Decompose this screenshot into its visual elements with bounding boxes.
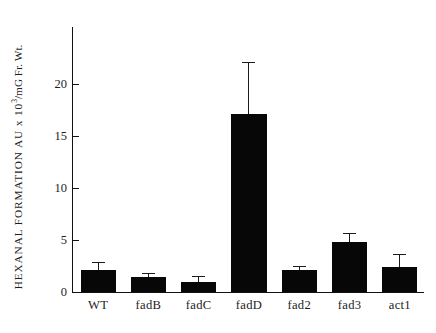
error-bar-cap-fadC xyxy=(192,276,205,277)
error-bar-cap-fadB xyxy=(142,273,155,274)
y-axis-tick-label: 0 xyxy=(61,286,67,299)
bar-series xyxy=(73,27,424,292)
bar-group xyxy=(181,27,216,292)
y-axis-tick-label: 10 xyxy=(55,182,68,195)
error-bar-stem-fad2 xyxy=(299,267,300,270)
bar-fadD xyxy=(231,114,266,292)
bar-fad2 xyxy=(282,270,317,292)
error-bar-stem-fad3 xyxy=(349,234,350,242)
bar-act1 xyxy=(382,267,417,292)
x-axis-tick-label-WT: WT xyxy=(73,298,123,313)
plot-area: 05101520 xyxy=(72,27,424,293)
error-bar-stem-fadB xyxy=(148,274,149,277)
error-bar-cap-WT xyxy=(92,262,105,263)
y-axis-title-post: /mG Fr. Wt. xyxy=(12,44,24,98)
error-bar-stem-fadD xyxy=(248,63,249,114)
error-bar-stem-act1 xyxy=(399,255,400,267)
error-bar-cap-fad3 xyxy=(343,233,356,234)
x-axis-tick-label-fadC: fadC xyxy=(174,298,224,313)
x-axis-tick-label-fadD: fadD xyxy=(224,298,274,313)
x-axis-tick-label-act1: act1 xyxy=(375,298,425,313)
x-axis-tick-label-fad3: fad3 xyxy=(324,298,374,313)
bar-group xyxy=(231,27,266,292)
x-axis-tick-label-fad2: fad2 xyxy=(274,298,324,313)
y-axis-tick-label: 20 xyxy=(55,78,68,91)
bar-WT xyxy=(81,270,116,292)
y-axis-title-container: HEXANAL FORMATION AU x 103/mG Fr. Wt. xyxy=(0,0,34,333)
bar-group xyxy=(332,27,367,292)
bar-group xyxy=(382,27,417,292)
error-bar-stem-fadC xyxy=(198,277,199,282)
bar-group xyxy=(81,27,116,292)
x-axis-line xyxy=(72,292,424,293)
bar-group xyxy=(282,27,317,292)
y-axis-tick-label: 5 xyxy=(61,234,67,247)
y-axis-tick-mark xyxy=(73,292,79,293)
error-bar-cap-fad2 xyxy=(293,266,306,267)
bar-fad3 xyxy=(332,242,367,292)
error-bar-stem-WT xyxy=(98,263,99,270)
bar-fadC xyxy=(181,282,216,292)
bar-fadB xyxy=(131,277,166,292)
bar-group xyxy=(131,27,166,292)
error-bar-cap-act1 xyxy=(393,254,406,255)
y-axis-title: HEXANAL FORMATION AU x 103/mG Fr. Wt. xyxy=(10,44,24,289)
x-axis-tick-label-fadB: fadB xyxy=(123,298,173,313)
y-axis-tick-label: 15 xyxy=(55,130,68,143)
error-bar-cap-fadD xyxy=(242,62,255,63)
bar-chart-figure: HEXANAL FORMATION AU x 103/mG Fr. Wt. 05… xyxy=(0,0,436,333)
y-axis-title-pre: HEXANAL FORMATION AU x 10 xyxy=(12,102,24,289)
